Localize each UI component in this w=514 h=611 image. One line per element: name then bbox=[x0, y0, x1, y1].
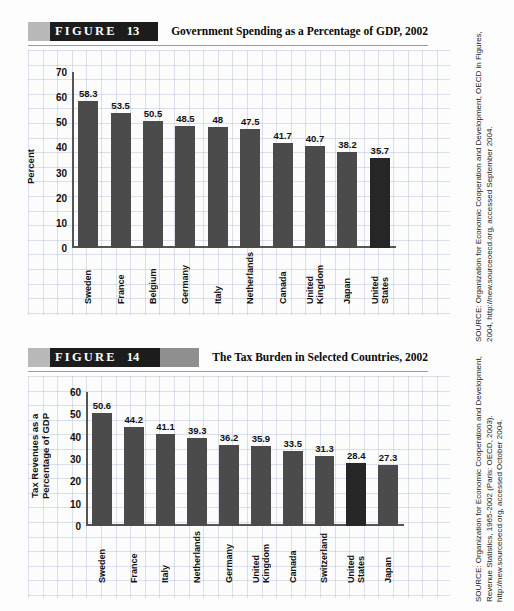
bar: 41.7 bbox=[273, 143, 293, 248]
x-label-cell: Belgium bbox=[137, 252, 169, 304]
figure-14-bars: 50.6 44.2 41.1 39.3 36.2 35.9 33.5 31.3 … bbox=[86, 392, 404, 526]
x-label-cell: Germany bbox=[213, 531, 245, 583]
figure-13-banner: FIGURE 13 Government Spending as a Perce… bbox=[28, 22, 428, 41]
bar: 36.2 bbox=[219, 445, 239, 526]
bar-value-label: 36.2 bbox=[220, 432, 239, 443]
bar: 31.3 bbox=[315, 456, 335, 526]
bar-value-label: 39.3 bbox=[188, 425, 207, 436]
bar-cell: 28.4 bbox=[340, 392, 372, 526]
bar-value-label: 28.4 bbox=[347, 450, 366, 461]
bar-value-label: 53.5 bbox=[111, 100, 130, 111]
x-axis-label: Italy bbox=[213, 252, 223, 304]
figure-13-plot: 70 60 50 40 30 20 10 0 Percent 58.3 53.5… bbox=[72, 72, 396, 248]
bar: 50.6 bbox=[92, 413, 112, 526]
x-axis-label: United States bbox=[370, 252, 390, 304]
x-axis-label: Netherlands bbox=[245, 252, 255, 304]
x-axis-label: France bbox=[116, 252, 126, 304]
bar: 50.5 bbox=[143, 121, 163, 248]
bar-cell: 35.9 bbox=[245, 392, 277, 526]
bar: 44.2 bbox=[124, 427, 144, 526]
bar-highlighted: 28.4 bbox=[346, 463, 366, 526]
x-label-cell: Canada bbox=[277, 531, 309, 583]
x-label-cell: United States bbox=[364, 252, 396, 304]
figure-13-title: Government Spending as a Percentage of G… bbox=[171, 22, 428, 41]
bar-cell: 41.1 bbox=[150, 392, 182, 526]
bar-value-label: 35.9 bbox=[252, 433, 271, 444]
page-canvas: FIGURE 13 Government Spending as a Perce… bbox=[0, 0, 514, 611]
figure-13-ytick: 20 bbox=[56, 192, 67, 203]
bar-cell: 36.2 bbox=[213, 392, 245, 526]
figure-13-ytick: 10 bbox=[56, 217, 67, 228]
figure-14-tag-word: FIGURE bbox=[55, 350, 117, 365]
x-axis-label: Belgium bbox=[148, 252, 158, 304]
x-label-cell: United Kingdom bbox=[245, 531, 277, 583]
x-label-cell: Sweden bbox=[72, 252, 104, 304]
bar-value-label: 38.2 bbox=[338, 139, 357, 150]
bar: 33.5 bbox=[283, 451, 303, 526]
x-axis-label: Switzerland bbox=[319, 531, 329, 583]
figure-14-ytick: 20 bbox=[70, 476, 81, 487]
figure-14-tag-number: 14 bbox=[127, 350, 140, 365]
figure-13-ytick: 30 bbox=[56, 167, 67, 178]
figure-13-ytick: 60 bbox=[56, 92, 67, 103]
figure-14-ytick: 60 bbox=[70, 387, 81, 398]
x-axis-label: Netherlands bbox=[192, 531, 202, 583]
bar-value-label: 48.5 bbox=[176, 113, 195, 124]
figure-14-y-axis-label: Tax Revenues as a Percentage of GDP bbox=[29, 389, 51, 523]
bar: 53.5 bbox=[111, 113, 131, 248]
bar-cell: 35.7 bbox=[364, 72, 396, 248]
figure-14-ytick: 40 bbox=[70, 431, 81, 442]
bar: 27.3 bbox=[378, 465, 398, 526]
bar-cell: 58.3 bbox=[72, 72, 104, 248]
x-label-cell: Netherlands bbox=[181, 531, 213, 583]
figure-13-x-labels: Sweden France Belgium Germany Italy Neth… bbox=[72, 252, 396, 304]
figure-14-plot: 60 50 40 30 20 10 0 Tax Revenues as a Pe… bbox=[86, 392, 404, 526]
bar-value-label: 41.7 bbox=[273, 130, 292, 141]
figure-13-tag-word: FIGURE bbox=[55, 24, 117, 39]
bar-cell: 33.5 bbox=[277, 392, 309, 526]
bar: 58.3 bbox=[78, 101, 98, 248]
bar-value-label: 47.5 bbox=[241, 116, 260, 127]
bar-cell: 48.5 bbox=[169, 72, 201, 248]
bar-cell: 50.5 bbox=[137, 72, 169, 248]
figure-14-ytick: 30 bbox=[70, 454, 81, 465]
bar-cell: 48 bbox=[202, 72, 234, 248]
bar-cell: 50.6 bbox=[86, 392, 118, 526]
figure-13-ytick: 0 bbox=[61, 243, 67, 254]
x-axis-label: Germany bbox=[224, 531, 234, 583]
bar-value-label: 44.2 bbox=[124, 414, 143, 425]
x-axis-label: Canada bbox=[288, 531, 298, 583]
x-axis-label: Canada bbox=[278, 252, 288, 304]
x-label-cell: Japan bbox=[331, 252, 363, 304]
bar-cell: 40.7 bbox=[299, 72, 331, 248]
x-label-cell: United States bbox=[340, 531, 372, 583]
figure-14-x-labels: Sweden France Italy Netherlands Germany … bbox=[86, 531, 404, 583]
bar-value-label: 48 bbox=[213, 114, 224, 125]
bar-value-label: 33.5 bbox=[283, 438, 302, 449]
x-axis-label: Sweden bbox=[83, 252, 93, 304]
bar: 35.9 bbox=[251, 446, 271, 526]
figure-14-ytick: 0 bbox=[75, 521, 81, 532]
figure-13-tag: FIGURE 13 bbox=[28, 22, 158, 41]
x-axis-label: United States bbox=[346, 531, 366, 583]
figure-13-tag-number: 13 bbox=[127, 24, 140, 39]
bar-value-label: 41.1 bbox=[156, 421, 175, 432]
figure-13-ytick: 70 bbox=[56, 67, 67, 78]
bar-cell: 41.7 bbox=[266, 72, 298, 248]
x-axis-label: Japan bbox=[342, 252, 352, 304]
figure-13-ytick: 40 bbox=[56, 142, 67, 153]
x-label-cell: Italy bbox=[150, 531, 182, 583]
bar: 40.7 bbox=[305, 146, 325, 248]
figure-14-ytick: 50 bbox=[70, 409, 81, 420]
figure-14-tag: FIGURE 14 bbox=[28, 348, 199, 367]
bar-highlighted: 35.7 bbox=[370, 158, 390, 248]
figure-14-rule bbox=[28, 371, 428, 372]
x-label-cell: Sweden bbox=[86, 531, 118, 583]
bar: 41.1 bbox=[156, 434, 176, 526]
figure-13-y-axis-label: Percent bbox=[25, 122, 36, 212]
x-label-cell: Canada bbox=[266, 252, 298, 304]
bar-cell: 47.5 bbox=[234, 72, 266, 248]
figure-14-title: The Tax Burden in Selected Countries, 20… bbox=[212, 348, 428, 367]
bar-cell: 44.2 bbox=[118, 392, 150, 526]
figure-13-rule bbox=[28, 45, 428, 46]
